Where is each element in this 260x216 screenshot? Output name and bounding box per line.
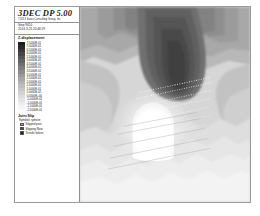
colorbar-swatch	[18, 109, 25, 113]
plot-frame: 3DEC DP 5.00 ©2013 Itasca Consulting Gro…	[14, 6, 251, 203]
joint-slip-item: Tensile failure	[15, 131, 79, 135]
colorbar-label: -2.0000E-01	[25, 109, 42, 113]
joint-slip-list: Slipped pastSlipping NowTensile failure	[15, 122, 79, 135]
plot-canvas	[80, 7, 250, 202]
date-label: 2014-3-25 20:46:19	[18, 28, 77, 32]
excavation-dome	[132, 103, 174, 157]
legend-panel: 3DEC DP 5.00 ©2013 Itasca Consulting Gro…	[15, 7, 80, 202]
screenshot-root: 3DEC DP 5.00 ©2013 Itasca Consulting Gro…	[0, 0, 260, 216]
joint-slip-label: Tensile failure	[24, 131, 43, 135]
copyright-line: ©2013 Itasca Consulting Group, Inc.	[18, 18, 77, 22]
app-title: 3DEC DP 5.00	[18, 8, 77, 18]
contour-plot	[80, 7, 250, 202]
colorbar: 7.5000E-017.0000E-016.5000E-016.0000E-01…	[15, 42, 79, 113]
step-block: Step 9410 2014-3-25 20:46:19	[15, 23, 79, 33]
title-block: 3DEC DP 5.00 ©2013 Itasca Consulting Gro…	[15, 7, 79, 21]
